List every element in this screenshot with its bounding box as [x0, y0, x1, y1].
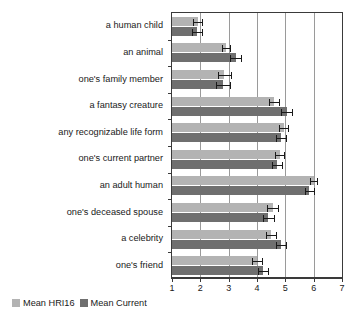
- error-bar-cap-lower: [279, 125, 280, 132]
- error-bar: [267, 208, 278, 209]
- category-label: one's deceased spouse: [0, 207, 163, 217]
- bar-mean-hri16: [172, 150, 280, 159]
- gridline-5: [285, 13, 286, 277]
- error-bar-cap-upper: [314, 188, 315, 195]
- error-bar-cap-upper: [241, 55, 242, 62]
- error-bar: [258, 271, 268, 272]
- error-bar-cap-lower: [267, 205, 268, 212]
- x-tick-6: [314, 278, 315, 282]
- category-label: a human child: [0, 20, 163, 30]
- category-axis-labels: a human childan animalone's family membe…: [0, 12, 167, 278]
- error-bar-cap-upper: [286, 135, 287, 142]
- error-bar-cap-lower: [216, 82, 217, 89]
- x-tick-5: [285, 278, 286, 282]
- error-bar: [230, 58, 241, 59]
- error-bar-cap-lower: [276, 135, 277, 142]
- bar-mean-hri16: [172, 70, 224, 79]
- bar-mean-current: [172, 266, 263, 275]
- error-bar-cap-lower: [266, 232, 267, 239]
- error-bar: [269, 102, 279, 103]
- error-bar: [305, 191, 314, 192]
- legend-label-mean-hri16: Mean HRI16: [23, 298, 75, 308]
- x-tick-label-1: 1: [169, 283, 174, 293]
- error-bar: [279, 128, 288, 129]
- legend-label-mean-current: Mean Current: [91, 298, 147, 308]
- error-bar-cap-upper: [292, 109, 293, 116]
- x-axis: 1234567: [171, 278, 343, 298]
- bar-mean-hri16: [172, 230, 271, 239]
- error-bar-cap-lower: [230, 55, 231, 62]
- bar-mean-current: [172, 133, 281, 142]
- error-bar: [275, 155, 285, 156]
- error-bar-cap-upper: [317, 178, 318, 185]
- x-tick-label-5: 5: [283, 283, 288, 293]
- bar-mean-current: [172, 107, 287, 116]
- category-label: an adult human: [0, 180, 163, 190]
- x-tick-label-4: 4: [254, 283, 259, 293]
- category-label: any recognizable life form: [0, 127, 163, 137]
- category-label: a celebrity: [0, 233, 163, 243]
- category-tick-3: [168, 93, 172, 94]
- error-bar: [193, 22, 202, 23]
- category-tick-7: [168, 199, 172, 200]
- error-bar-cap-upper: [282, 162, 283, 169]
- bar-mean-current: [172, 186, 309, 195]
- bar-mean-hri16: [172, 43, 226, 52]
- error-bar: [266, 235, 276, 236]
- error-bar: [276, 138, 286, 139]
- bar-mean-current: [172, 240, 281, 249]
- error-bar: [192, 32, 202, 33]
- x-tick-3: [229, 278, 230, 282]
- category-label: one's family member: [0, 74, 163, 84]
- error-bar: [310, 181, 317, 182]
- error-bar-cap-upper: [268, 268, 269, 275]
- gridline-6: [314, 13, 315, 277]
- error-bar-cap-lower: [258, 268, 259, 275]
- error-bar-cap-upper: [278, 205, 279, 212]
- x-tick-label-3: 3: [226, 283, 231, 293]
- error-bar: [272, 165, 282, 166]
- error-bar-cap-upper: [288, 125, 289, 132]
- legend-item-mean-current: Mean Current: [80, 298, 147, 308]
- error-bar-cap-lower: [305, 188, 306, 195]
- error-bar-cap-lower: [263, 215, 264, 222]
- legend-item-mean-hri16: Mean HRI16: [12, 298, 75, 308]
- category-tick-6: [168, 173, 172, 174]
- error-bar-cap-upper: [230, 82, 231, 89]
- bar-mean-hri16: [172, 256, 257, 265]
- error-bar-cap-upper: [274, 215, 275, 222]
- error-bar-cap-upper: [279, 99, 280, 106]
- x-tick-4: [257, 278, 258, 282]
- x-tick-label-7: 7: [339, 283, 344, 293]
- bar-mean-current: [172, 53, 236, 62]
- bar-mean-hri16: [172, 203, 273, 212]
- error-bar: [263, 218, 274, 219]
- error-bar: [281, 112, 292, 113]
- error-bar-cap-upper: [202, 19, 203, 26]
- category-label: one's friend: [0, 260, 163, 270]
- bar-mean-current: [172, 160, 277, 169]
- error-bar-cap-lower: [281, 109, 282, 116]
- error-bar-cap-lower: [276, 242, 277, 249]
- category-tick-4: [168, 119, 172, 120]
- error-bar-cap-lower: [272, 162, 273, 169]
- category-tick-8: [168, 226, 172, 227]
- error-bar-cap-lower: [269, 99, 270, 106]
- error-bar: [218, 75, 230, 76]
- error-bar-cap-lower: [222, 45, 223, 52]
- plot-area: [171, 12, 343, 278]
- legend-swatch-icon-mean-hri16: [12, 299, 20, 307]
- error-bar-cap-upper: [262, 258, 263, 265]
- bar-mean-hri16: [172, 97, 274, 106]
- error-bar-cap-upper: [231, 72, 232, 79]
- error-bar-cap-upper: [230, 45, 231, 52]
- bar-mean-hri16: [172, 176, 314, 185]
- bar-mean-current: [172, 213, 268, 222]
- x-tick-2: [200, 278, 201, 282]
- error-bar: [276, 245, 286, 246]
- category-tick-9: [168, 252, 172, 253]
- bar-mean-hri16: [172, 123, 284, 132]
- error-bar: [216, 85, 230, 86]
- x-tick-label-6: 6: [311, 283, 316, 293]
- legend-swatch-icon-mean-current: [80, 299, 88, 307]
